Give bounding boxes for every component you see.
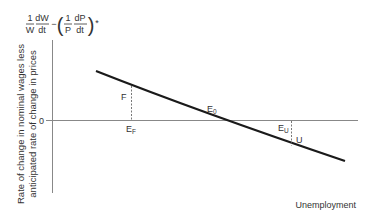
point-u-label: U [296,135,303,145]
point-f-label: F [121,92,127,102]
svg-text:): ) [88,14,95,36]
formula-frac4-num: dP [74,13,85,23]
formula-star: * [95,18,99,28]
zero-tick-label: 0 [39,116,44,126]
svg-text:(: ( [57,14,64,36]
point-ef-label: EF [126,124,136,135]
formula-frac1-num: 1 [27,13,32,23]
y-axis-label-line1: Rate of change in nominal wages less [15,44,26,204]
formula-frac4-den: dt [76,25,84,35]
formula-frac2-num: dW [35,13,49,23]
phillips-curve-diagram: 1 W dW dt − ( 1 P dP dt ) * Rate of chan… [0,0,375,219]
x-axis-label: Unemployment [295,200,356,210]
point-eu-label: EU [278,123,289,134]
point-e0-label: E0 [207,104,217,115]
y-axis-formula: 1 W dW dt − ( 1 P dP dt ) * [26,13,99,36]
y-axis-label: Rate of change in nominal wages less ant… [15,44,38,204]
formula-frac3-den: P [65,25,71,35]
phillips-curve [96,71,345,161]
y-axis-label-line2: anticipated rate of change in prices [27,50,38,198]
formula-frac2-den: dt [38,25,46,35]
formula-frac3-num: 1 [65,13,70,23]
formula-frac1-den: W [26,25,35,35]
